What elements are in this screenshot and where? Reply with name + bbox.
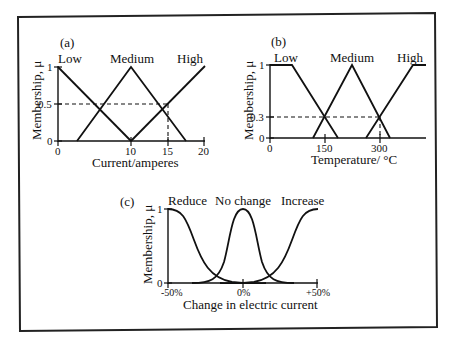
y-axis-label-c: Membership, μ <box>140 205 155 284</box>
panel-label-b: (b) <box>271 34 286 49</box>
x-axis-label-c: Change in electric current <box>183 297 318 312</box>
series-label-high-b: High <box>397 50 424 65</box>
y-tick-label-0-b: 0 <box>259 132 265 144</box>
y-tick-label-03-b: 0.3 <box>250 111 264 123</box>
y-axis-label-b: Membership, μ <box>241 61 256 140</box>
panel-label-c: (c) <box>120 194 134 209</box>
series-high-b <box>366 65 426 138</box>
y-tick-label-0-a: 0 <box>47 135 53 147</box>
chart-a: (a) Low Medium High Membership, μ 1 0.5 … <box>29 35 210 170</box>
x-tick-label-0-a: 0 <box>55 145 61 157</box>
series-label-medium-b: Medium <box>330 50 374 65</box>
chart-c: (c) Reduce No change Increase Membership… <box>120 193 330 312</box>
series-label-high-a: High <box>177 51 204 66</box>
x-tick-label-20-a: 20 <box>198 145 210 157</box>
panel-label-a: (a) <box>60 35 74 50</box>
x-tick-label-m50-c: -50% <box>161 287 183 298</box>
series-label-reduce-c: Reduce <box>168 193 207 208</box>
series-low-b <box>270 65 338 138</box>
series-reduce-c <box>168 209 266 283</box>
y-tick-label-1-c: 1 <box>157 203 163 215</box>
x-tick-label-0-b: 0 <box>267 142 273 154</box>
series-label-increase-c: Increase <box>281 193 325 208</box>
y-tick-label-1-a: 1 <box>47 61 53 73</box>
x-axis-label-b: Temperature/ °C <box>311 152 397 167</box>
y-tick-label-1-b: 1 <box>259 59 265 71</box>
series-medium-b <box>313 65 390 138</box>
x-axis-label-a: Current/amperes <box>92 155 179 170</box>
y-tick-label-05-a: 0.5 <box>38 98 52 110</box>
series-increase-c <box>220 209 318 283</box>
series-label-medium-a: Medium <box>110 51 154 66</box>
chart-b: (b) Low Medium High Membership, μ 1 0.3 … <box>241 34 426 167</box>
series-label-nochange-c: No change <box>215 193 271 208</box>
series-label-low-b: Low <box>274 50 298 65</box>
series-nochange-c <box>192 209 294 283</box>
fuzzy-membership-figure: (a) Low Medium High Membership, μ 1 0.5 … <box>0 0 453 346</box>
series-label-low-a: Low <box>58 51 82 66</box>
